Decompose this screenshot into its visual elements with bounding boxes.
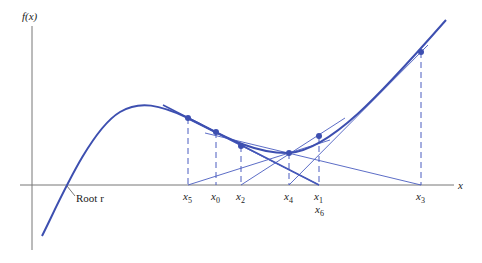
iteration-points (185, 49, 424, 156)
point-x1 (316, 133, 322, 139)
svg-text:x3: x3 (415, 190, 425, 205)
svg-text:x0: x0 (210, 190, 220, 205)
point-x2 (238, 143, 244, 149)
point-x4 (286, 150, 292, 156)
point-x0 (213, 129, 219, 135)
dashed-guides (188, 52, 421, 185)
newton-method-diagram: f(x) x Root r x5 x0 x2 x4 x1 x6 x3 (0, 0, 482, 263)
tangent-lines (163, 45, 428, 185)
point-x3 (418, 49, 424, 55)
svg-text:x6: x6 (314, 203, 324, 218)
root-leader (67, 186, 75, 196)
root-label: Root r (76, 192, 104, 204)
svg-text:x5: x5 (182, 190, 192, 205)
svg-text:x2: x2 (235, 190, 245, 205)
svg-text:x4: x4 (283, 190, 293, 205)
point-x5 (185, 115, 191, 121)
x-tick-labels: x5 x0 x2 x4 x1 x6 x3 (182, 190, 425, 218)
y-axis-label: f(x) (22, 10, 38, 23)
x-axis-label: x (457, 179, 463, 191)
